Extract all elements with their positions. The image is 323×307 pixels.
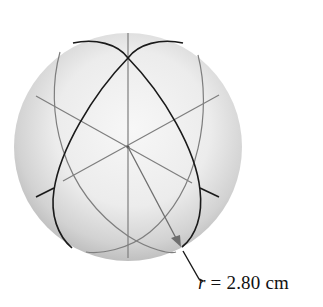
equals-sign: = <box>206 272 227 293</box>
sphere-diagram <box>0 0 323 307</box>
radius-unit: cm <box>261 272 290 293</box>
radius-value: 2.80 <box>226 272 260 293</box>
radius-variable: r <box>198 272 206 293</box>
radius-label: r = 2.80 cm <box>198 272 289 294</box>
